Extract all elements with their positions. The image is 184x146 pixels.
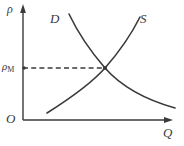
axes-group xyxy=(20,4,173,123)
origin-label: O xyxy=(6,112,15,125)
demand-curve-label: D xyxy=(50,12,59,25)
supply-demand-figure: ρ Q O D S ρM xyxy=(0,0,184,146)
y-axis-tick-label-equilibrium-price: ρM xyxy=(2,61,14,74)
tick-label-subscript: M xyxy=(7,65,14,74)
x-axis-arrow-icon xyxy=(164,117,173,123)
supply-curve xyxy=(47,17,140,113)
y-axis-label: ρ xyxy=(7,3,13,15)
equilibrium-point-marker xyxy=(103,66,107,70)
equilibrium-guide-group xyxy=(22,66,107,70)
figure-canvas xyxy=(0,0,184,146)
supply-curve-label: S xyxy=(140,12,147,25)
demand-curve xyxy=(69,14,175,108)
y-axis-tick-marker xyxy=(22,66,25,69)
x-axis-label: Q xyxy=(163,126,172,139)
curves-group xyxy=(47,14,175,113)
y-axis-arrow-icon xyxy=(20,4,26,13)
